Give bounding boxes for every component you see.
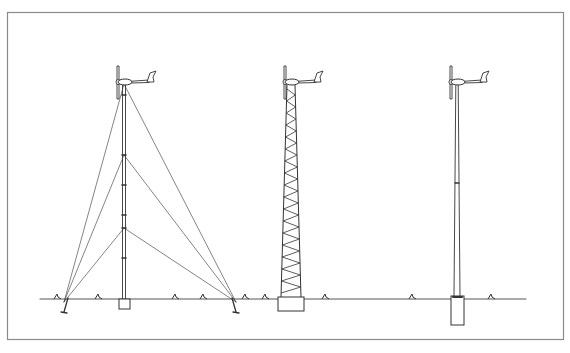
tail-vane: [314, 71, 323, 82]
blade-lower: [450, 84, 452, 99]
blade-lower: [284, 84, 286, 99]
nacelle: [451, 79, 465, 85]
pole-left-edge: [454, 85, 456, 296]
diagram-frame: [8, 13, 564, 340]
guy-wire: [124, 228, 236, 302]
grass-tuft-icon: [95, 294, 102, 299]
anchor-rod: [232, 298, 236, 312]
anchor-plate: [61, 312, 67, 313]
grass-tuft-icon: [322, 294, 329, 299]
guyed-tower: [61, 66, 239, 313]
tail-boom: [132, 80, 149, 81]
grass-tuft-icon: [242, 294, 249, 299]
wind-tower-diagram: [0, 0, 570, 353]
monopole-tower: [449, 66, 489, 325]
lattice-left-leg: [281, 85, 287, 297]
mast-foundation: [119, 299, 130, 309]
diagram-canvas: [0, 0, 570, 353]
grass-tuft-icon: [54, 294, 61, 299]
anchor-plate: [233, 312, 239, 313]
pole-right-edge: [458, 85, 460, 296]
lattice-foundation: [278, 297, 304, 311]
tail-boom: [465, 83, 482, 84]
blade-lower: [117, 84, 119, 99]
guy-wire: [124, 155, 236, 302]
grass-tuft-icon: [409, 294, 416, 299]
tail-boom: [132, 83, 149, 84]
nacelle: [285, 79, 299, 85]
tail-boom: [299, 83, 316, 84]
turbine-head-icon: [283, 66, 323, 99]
tail-vane: [480, 71, 489, 82]
guy-wire: [64, 84, 124, 302]
tail-vane: [147, 71, 156, 82]
tail-boom: [299, 80, 316, 81]
tail-boom: [465, 80, 482, 81]
blade-upper: [284, 66, 286, 81]
pole-foundation: [451, 296, 464, 325]
nacelle: [118, 79, 132, 85]
guy-wire: [64, 155, 124, 302]
turbine-head-icon: [449, 66, 489, 99]
guy-wire: [124, 84, 236, 302]
grass-tufts: [54, 294, 495, 299]
grass-tuft-icon: [262, 294, 269, 299]
blade-upper: [117, 66, 119, 81]
turbine-head-icon: [116, 66, 156, 99]
blade-upper: [450, 66, 452, 81]
grass-tuft-icon: [172, 294, 179, 299]
lattice-tower: [278, 66, 323, 311]
grass-tuft-icon: [488, 294, 495, 299]
guy-wire: [64, 228, 124, 302]
grass-tuft-icon: [200, 294, 207, 299]
